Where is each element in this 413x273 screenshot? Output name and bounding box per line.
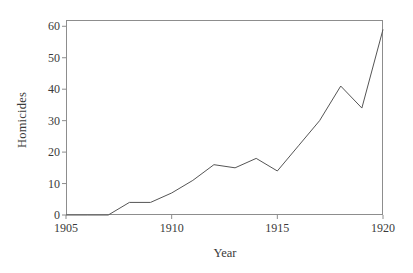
x-axis-title: Year — [66, 246, 384, 260]
x-tick-label: 1905 — [44, 222, 88, 234]
x-tick-label: 1915 — [255, 222, 299, 234]
chart-figure: Homicides 0102030405060 1905191019151920… — [0, 0, 413, 273]
x-tick-label: 1910 — [150, 222, 194, 234]
homicides-line-series — [66, 29, 383, 215]
axis-ticks — [62, 26, 383, 219]
x-axis-tick-labels: 1905191019151920 — [0, 222, 413, 238]
x-tick-label: 1920 — [361, 222, 405, 234]
